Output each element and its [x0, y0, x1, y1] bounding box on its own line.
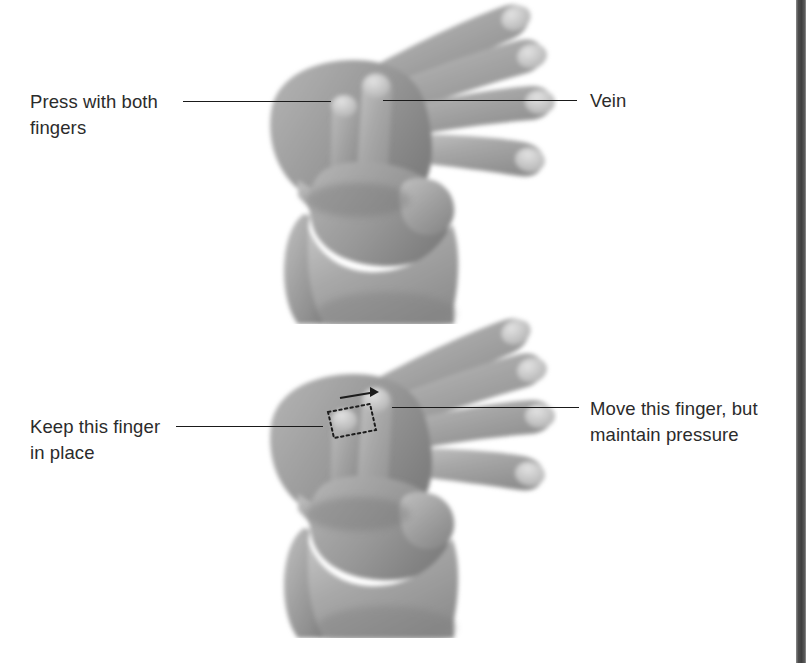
illustration-page: Press with both fingers Vein Keep this f… [0, 0, 811, 663]
leader-line-move-this-finger [392, 407, 579, 408]
callout-label-press-with-both-fingers: Press with both fingers [30, 89, 190, 141]
figure-top-hand-illustration [258, 0, 558, 324]
leader-line-press-with-both-fingers [183, 101, 331, 102]
figure-bottom-hand-illustration [258, 308, 558, 638]
leader-line-vein [383, 100, 577, 101]
scanned-page-edge [796, 0, 806, 663]
callout-label-vein: Vein [590, 88, 770, 114]
callout-label-keep-this-finger-in-place: Keep this finger in place [30, 414, 200, 466]
callout-label-move-this-finger: Move this finger, but maintain pressure [590, 396, 790, 448]
